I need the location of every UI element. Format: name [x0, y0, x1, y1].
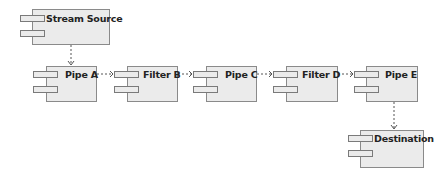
component-port-icon	[193, 71, 218, 78]
component-port-icon	[348, 150, 373, 157]
component-port-icon	[20, 30, 45, 37]
component-port-icon	[33, 71, 58, 78]
component-label: Pipe E	[385, 69, 417, 80]
component-port-icon	[20, 15, 45, 22]
component-label: Filter D	[302, 69, 340, 80]
component-port-icon	[114, 86, 139, 93]
component-label: Stream Source	[46, 13, 122, 24]
component-port-icon	[273, 71, 298, 78]
component-port-icon	[348, 135, 373, 142]
component-port-icon	[114, 71, 139, 78]
component-port-icon	[354, 86, 379, 93]
component-label: Pipe A	[65, 69, 98, 80]
component-port-icon	[354, 71, 379, 78]
component-label: Destination	[374, 133, 434, 144]
component-port-icon	[273, 86, 298, 93]
component-port-icon	[193, 86, 218, 93]
component-port-icon	[33, 86, 58, 93]
component-label: Filter B	[143, 69, 181, 80]
component-label: Pipe C	[225, 69, 258, 80]
